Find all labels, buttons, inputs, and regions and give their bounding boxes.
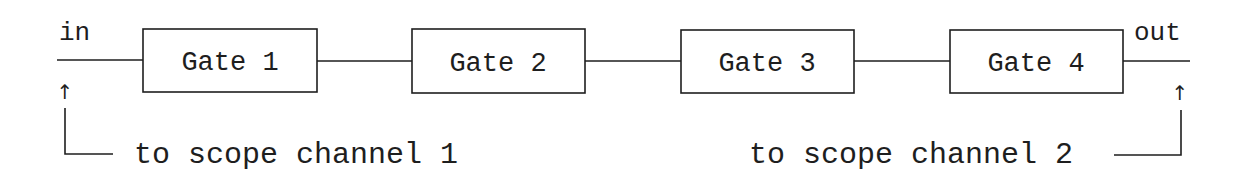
scope-channel-2-label: to scope channel 2 — [749, 138, 1073, 172]
gate-2: Gate 2 — [412, 29, 585, 93]
gate-3-label: Gate 3 — [718, 49, 815, 79]
gate-4-label: Gate 4 — [987, 49, 1084, 79]
tap-1-connector — [65, 108, 113, 154]
gate-1: Gate 1 — [143, 29, 317, 92]
scope-tap-1: ↑ to scope channel 1 — [57, 80, 458, 172]
arrow-up-icon: ↑ — [1172, 81, 1189, 105]
scope-tap-2: ↑ to scope channel 2 — [749, 81, 1188, 172]
scope-channel-1-label: to scope channel 1 — [134, 138, 458, 172]
signal-chain-diagram: in Gate 1 Gate 2 Gate 3 Gate 4 out ↑ to … — [0, 0, 1248, 182]
gate-4: Gate 4 — [950, 30, 1123, 93]
gate-1-label: Gate 1 — [181, 48, 278, 78]
tap-2-connector — [1114, 110, 1181, 155]
arrow-up-icon: ↑ — [57, 80, 74, 104]
gate-2-label: Gate 2 — [449, 49, 546, 79]
gate-3: Gate 3 — [681, 30, 854, 93]
output-label: out — [1134, 18, 1181, 48]
input-label: in — [59, 18, 90, 48]
